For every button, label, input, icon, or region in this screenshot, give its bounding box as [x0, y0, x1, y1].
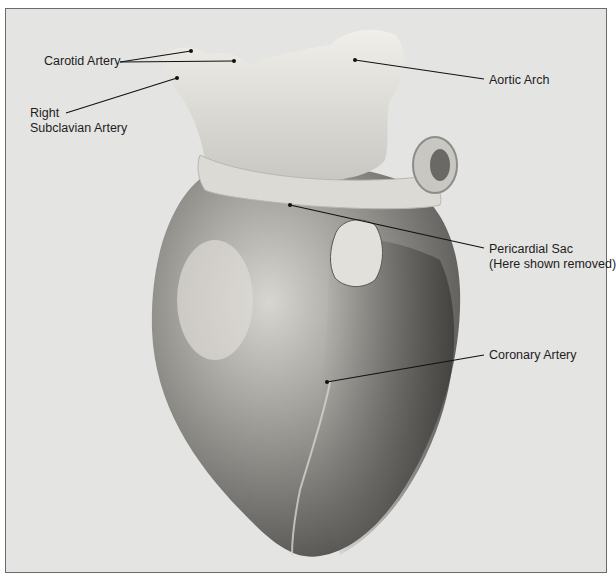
label-right-subclavian-line1: Right [30, 106, 59, 121]
leader-right-subclavian [66, 78, 177, 113]
label-pericardial-sac-line2: (Here shown removed) [489, 257, 616, 272]
label-carotid-artery: Carotid Artery [44, 54, 120, 69]
atrial-appendage [330, 220, 382, 287]
label-aortic-arch: Aortic Arch [489, 73, 549, 88]
label-coronary-artery: Coronary Artery [489, 348, 577, 363]
heart-dark-side [320, 238, 454, 555]
label-right-subclavian-line2: Subclavian Artery [30, 121, 127, 136]
label-pericardial-sac-line1: Pericardial Sac [489, 242, 573, 257]
